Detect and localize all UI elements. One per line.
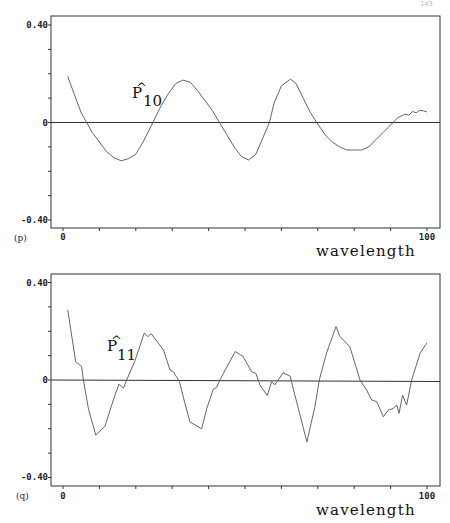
x-tick-label-end: 100 [419, 491, 435, 501]
chart-panel-p: 0.40 0 -0.40 0 100 (p) wavelength ^ P 10 [14, 16, 440, 260]
chart-panel-q: 0.40 0 -0.40 0 100 (q) wavelength ^ P 11 [16, 274, 440, 519]
x-tick-label-start: 0 [60, 232, 65, 242]
x-axis-label: wavelength [316, 501, 416, 519]
x-tick-label-end: 100 [419, 232, 435, 242]
y-tick-label-bottom: -0.40 [21, 472, 48, 482]
annotation-base: P [132, 84, 142, 102]
series-annotation-p11: ^ P 11 [107, 333, 136, 364]
annotation-base: P [107, 337, 117, 355]
y-tick-label-top: 0.40 [26, 20, 48, 30]
zero-line [51, 380, 440, 382]
x-axis-label: wavelength [316, 242, 416, 260]
annotation-subscript: 11 [117, 346, 136, 364]
annotation-subscript: 10 [143, 92, 162, 110]
y-tick-label-bottom: -0.40 [21, 215, 48, 225]
y-tick-label-zero: 0 [43, 375, 48, 385]
series-line-p11 [68, 310, 427, 442]
figure: 0.40 0 -0.40 0 100 (p) wavelength ^ P 10… [0, 0, 450, 523]
x-tick-label-start: 0 [60, 491, 65, 501]
series-annotation-p10: ^ P 10 [132, 80, 162, 110]
panel-label: (q) [16, 491, 29, 501]
series-line-p10 [68, 76, 427, 161]
y-tick-label-zero: 0 [43, 118, 48, 128]
y-tick-label-top: 0.40 [26, 278, 48, 288]
panel-label: (p) [14, 233, 27, 243]
